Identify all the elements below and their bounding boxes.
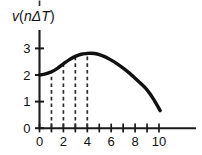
x-tick-label-4: 4 bbox=[84, 134, 91, 149]
x-tick-label-10: 10 bbox=[152, 134, 166, 149]
drop-lines bbox=[51, 53, 87, 127]
x-tick-label-0: 0 bbox=[36, 134, 43, 149]
y-tick-label-1: 1 bbox=[23, 94, 30, 109]
plot-canvas: 0123 0246810 bbox=[0, 0, 202, 155]
axis-lines bbox=[39, 30, 197, 129]
y-tick-labels: 0123 bbox=[23, 41, 30, 136]
x-tick-label-6: 6 bbox=[108, 134, 115, 149]
x-tick-label-8: 8 bbox=[131, 134, 138, 149]
plot-figure: v(nΔT) 0123 0246810 bbox=[0, 0, 202, 155]
y-tick-label-3: 3 bbox=[23, 41, 30, 56]
x-tick-label-2: 2 bbox=[60, 134, 67, 149]
x-tick-labels: 0246810 bbox=[36, 134, 166, 149]
y-tick-label-0: 0 bbox=[23, 121, 30, 136]
data-curve bbox=[40, 53, 161, 110]
series-path bbox=[40, 53, 161, 110]
y-tick-label-2: 2 bbox=[23, 68, 30, 83]
